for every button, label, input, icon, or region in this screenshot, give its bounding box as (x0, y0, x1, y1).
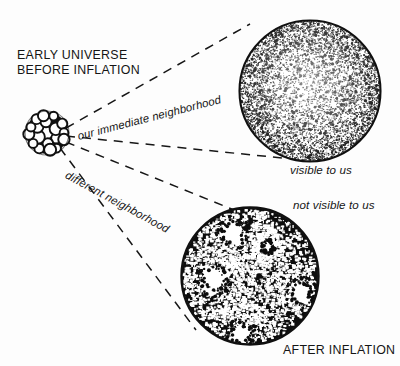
visible-to-us-label: visible to us (290, 163, 352, 177)
diagram-canvas: EARLY UNIVERSE BEFORE INFLATION our imme… (0, 0, 400, 366)
early-universe-line-1: EARLY UNIVERSE (17, 48, 127, 62)
early-universe-bubble-cluster (23, 110, 69, 156)
early-universe-label: EARLY UNIVERSE BEFORE INFLATION (17, 48, 140, 78)
after-inflation-label: AFTER INFLATION (283, 343, 395, 358)
early-universe-line-2: BEFORE INFLATION (17, 63, 140, 78)
visible-universe-circle (239, 20, 382, 163)
not-visible-to-us-label: not visible to us (293, 198, 375, 212)
not-visible-universe-circle (181, 207, 319, 351)
cone-line-notvisible-upper (66, 142, 234, 210)
